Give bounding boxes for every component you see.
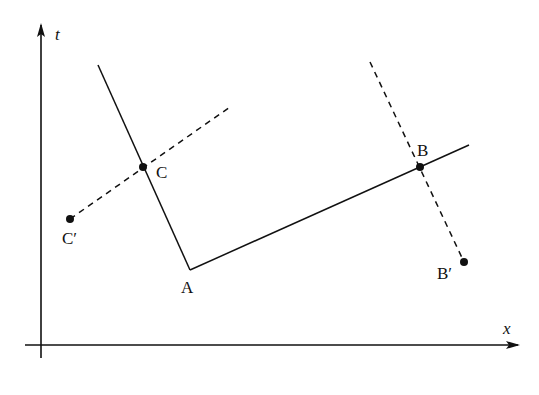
point-c-prime-label: C′ (62, 229, 77, 248)
x-axis-label: x (502, 319, 511, 338)
point-b-prime-dot (460, 258, 468, 266)
dashed-line-through-b (370, 62, 464, 262)
t-axis-label: t (55, 25, 61, 44)
dashed-line-through-c (70, 107, 230, 219)
point-b-prime-label: B′ (437, 264, 452, 283)
worldline-ab (190, 145, 469, 270)
point-c-dot (139, 163, 147, 171)
point-b-dot (416, 163, 424, 171)
point-b-label: B (417, 141, 428, 160)
point-c-prime-dot (66, 215, 74, 223)
point-a-label: A (181, 278, 194, 297)
spacetime-diagram: t x A B C B′ C′ (0, 0, 539, 395)
point-c-label: C (156, 163, 167, 182)
